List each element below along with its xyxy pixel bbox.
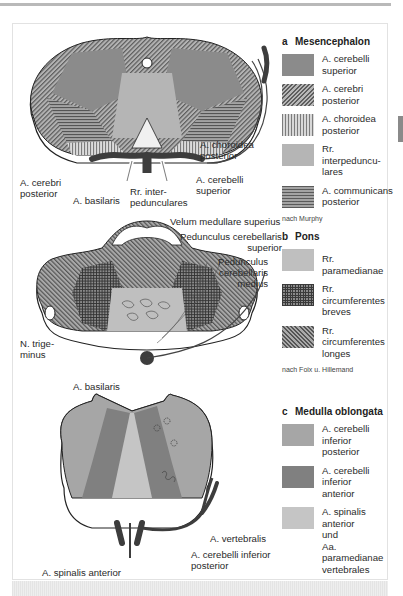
swatch-solid-dark [282, 466, 314, 488]
label-spinalis-anterior: A. spinalis anterior [42, 567, 121, 578]
label-velum-medullare: Velum medullare superius [170, 216, 280, 227]
source-note-a: nach Murphy [282, 215, 394, 222]
label-pica: A. cerebelli inferiorposterior [191, 549, 270, 571]
swatch-solid-light [282, 249, 314, 271]
legend-item: A. cerebriposterior [282, 83, 394, 106]
label-vertebralis: A. vertebralis [210, 533, 266, 544]
medulla-diagram [61, 394, 217, 558]
swatch-diagonal-hatch [282, 326, 314, 348]
legend-item: Rr. circumferenteslonges [282, 325, 394, 360]
legend-item: Rr. paramedianae [282, 248, 394, 276]
swatch-vertical-lines [282, 114, 314, 136]
swatch-solid-light [282, 507, 314, 529]
legend-item: A. cerebelli inferiorposterior [282, 423, 394, 458]
anatomy-illustration [12, 23, 282, 580]
legend-item: A. cerebellisuperior [282, 53, 394, 76]
chapter-tab-marker [398, 116, 403, 142]
source-note-b: nach Foix u. Hillemand [282, 366, 394, 373]
label-cerebelli-superior: A. cerebellisuperior [196, 174, 243, 196]
label-pedunculus-superior: Pedunculus cerebellarissuperior [180, 231, 282, 253]
swatch-diagonal-hatch [282, 84, 314, 106]
legend-title-a: aMesencephalon [282, 36, 394, 47]
label-n-trigeminus: N. trige-minus [20, 338, 54, 360]
swatch-solid-dark [282, 54, 314, 76]
label-cerebri-posterior: A. cerebriposterior [20, 177, 61, 199]
legend-item: A. cerebelli inferioranterior [282, 465, 394, 500]
legend-title-c: cMedulla oblongata [282, 406, 394, 417]
label-interpedunculares: Rr. inter-pedunculares [130, 186, 188, 208]
legend-mesencephalon: aMesencephalon A. cerebellisuperior A. c… [282, 36, 394, 222]
legend-pons: bPons Rr. paramedianae Rr. circumferente… [282, 231, 394, 373]
swatch-solid-mid [282, 424, 314, 446]
caption-bar [12, 581, 388, 596]
swatch-horizontal-lines [282, 186, 314, 208]
label-basilaris-b: A. basilaris [73, 381, 120, 392]
legend-medulla: cMedulla oblongata A. cerebelli inferior… [282, 406, 394, 582]
label-choroidea-posterior: A. choroideaposterior [200, 139, 254, 161]
swatch-cross-hatch [282, 284, 314, 306]
legend-item: A. choroideaposterior [282, 113, 394, 136]
label-pedunculus-medius: Pedunculuscerebellarismedius [218, 256, 268, 289]
legend-item: A. spinalis anteriorundAa. paramedianaev… [282, 506, 394, 575]
label-basilaris-a: A. basilaris [73, 195, 120, 206]
legend-item: Rr. circumferentesbreves [282, 283, 394, 318]
legend-item: Rr. interpeduncu-lares [282, 143, 394, 178]
legend-title-b: bPons [282, 231, 394, 242]
top-rule [0, 3, 391, 6]
legend-item: A. communicansposterior [282, 185, 394, 208]
swatch-solid-light [282, 144, 314, 166]
